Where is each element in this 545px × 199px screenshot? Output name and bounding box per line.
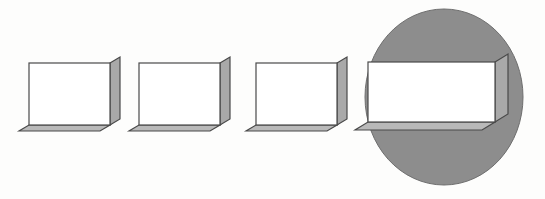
extruded-boxes-diagram	[0, 0, 545, 199]
box-1-side-face	[110, 57, 120, 125]
box-2-front-face	[139, 63, 220, 125]
box-2-side-face	[220, 57, 230, 125]
figure-canvas: Four identical three-dimensional rectang…	[0, 0, 545, 199]
box-4-side-face	[495, 54, 508, 122]
box-3-bottom-face	[246, 125, 337, 131]
box-1-group	[19, 57, 120, 131]
box-1-front-face	[29, 63, 110, 125]
box-2-group	[129, 57, 230, 131]
box-1-bottom-face	[19, 125, 110, 131]
box-4-bottom-face	[355, 122, 495, 130]
box-3-side-face	[337, 57, 347, 125]
box-4-group	[355, 54, 508, 130]
box-4-front-face	[368, 62, 495, 122]
box-3-group	[246, 57, 347, 131]
box-2-bottom-face	[129, 125, 220, 131]
box-3-front-face	[256, 63, 337, 125]
